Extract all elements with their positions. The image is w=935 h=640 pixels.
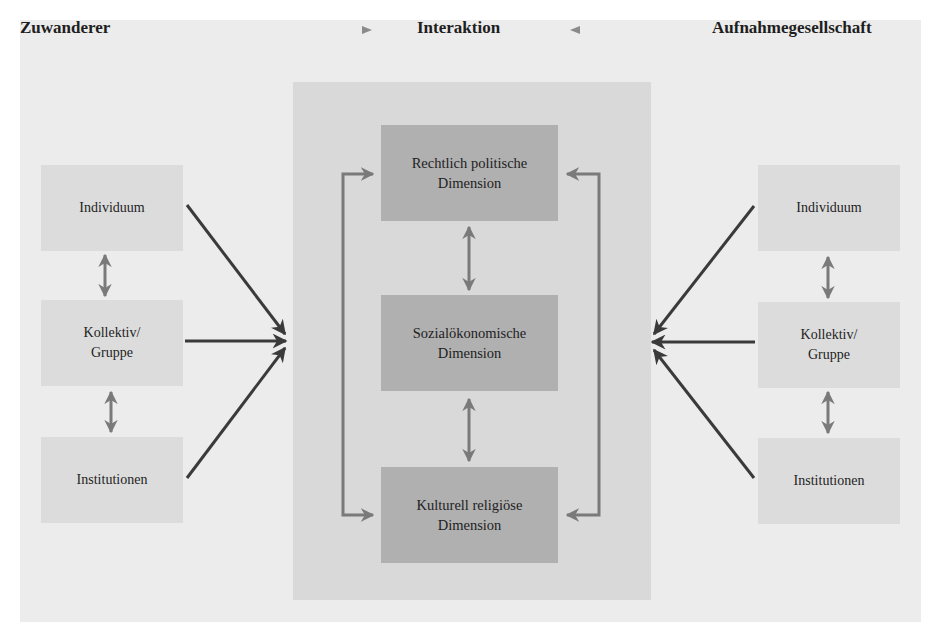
bracket-arrow-right [567, 174, 599, 515]
bracket-arrow-left [343, 174, 373, 515]
header-arrow-right-icon [362, 26, 372, 34]
arrows-layer [0, 0, 935, 640]
arrow-left-individuum [187, 205, 285, 334]
header-arrow-left-icon [570, 26, 580, 34]
arrow-right-individuum [654, 206, 754, 334]
arrow-left-institutionen [187, 348, 285, 478]
arrow-right-institutionen [654, 350, 754, 478]
